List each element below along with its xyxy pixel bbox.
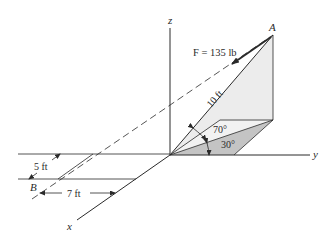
dim-5ft-arrow-bottom <box>29 173 37 179</box>
force-diagram: z y x A B F = 135 lb 10 ft 70° 30° 5 ft … <box>0 0 336 243</box>
dim-7ft-label: 7 ft <box>67 188 81 199</box>
dim-5ft-label: 5 ft <box>34 161 48 172</box>
angle-30-label: 30° <box>221 139 235 150</box>
point-B-label: B <box>30 181 37 193</box>
x-axis <box>77 155 170 220</box>
angle-70-label: 70° <box>213 124 227 135</box>
dim-5ft-arrow-top <box>52 154 60 160</box>
y-axis-label: y <box>312 148 318 160</box>
force-label: F = 135 lb <box>193 47 237 58</box>
ref-line-slant <box>58 154 93 179</box>
z-axis-label: z <box>167 14 173 26</box>
point-A-label: A <box>268 21 276 33</box>
x-axis-label: x <box>66 220 72 232</box>
